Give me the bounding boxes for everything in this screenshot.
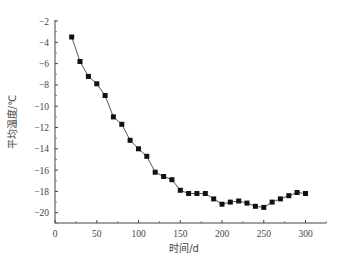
line-chart: −2−4−6−8−10−12−14−16−18−2005010015020025… <box>0 0 341 271</box>
data-point-marker <box>286 193 291 198</box>
y-tick-label: −4 <box>39 38 49 48</box>
data-point-marker <box>78 59 83 64</box>
data-point-marker <box>211 196 216 201</box>
data-point-marker <box>295 190 300 195</box>
data-point-marker <box>178 188 183 193</box>
data-point-marker <box>161 174 166 179</box>
x-tick-label: 100 <box>131 229 146 239</box>
x-axis-title: 时间/d <box>169 242 199 254</box>
x-tick-label: 0 <box>53 229 58 239</box>
data-point-marker <box>220 202 225 207</box>
x-tick-label: 250 <box>257 229 272 239</box>
data-point-marker <box>186 191 191 196</box>
data-point-marker <box>236 199 241 204</box>
y-tick-label: −12 <box>34 123 49 133</box>
data-point-marker <box>144 154 149 159</box>
x-tick-label: 50 <box>92 229 102 239</box>
y-tick-label: −20 <box>34 208 49 218</box>
data-point-marker <box>153 170 158 175</box>
y-tick-label: −10 <box>34 102 49 112</box>
x-tick-label: 150 <box>173 229 188 239</box>
y-tick-label: −16 <box>34 166 49 176</box>
data-point-marker <box>228 200 233 205</box>
data-point-marker <box>136 146 141 151</box>
data-point-marker <box>203 191 208 196</box>
data-point-marker <box>86 74 91 79</box>
y-tick-label: −8 <box>39 80 49 90</box>
data-point-marker <box>128 138 133 143</box>
data-point-marker <box>194 191 199 196</box>
data-point-marker <box>261 205 266 210</box>
y-tick-label: −2 <box>39 17 49 27</box>
axes: −2−4−6−8−10−12−14−16−18−2005010015020025… <box>34 17 326 240</box>
x-tick-label: 300 <box>298 229 313 239</box>
data-point-marker <box>303 191 308 196</box>
data-point-marker <box>245 201 250 206</box>
y-tick-label: −14 <box>34 144 49 154</box>
data-point-marker <box>253 204 258 209</box>
data-point-marker <box>103 93 108 98</box>
data-point-marker <box>169 177 174 182</box>
data-point-marker <box>270 200 275 205</box>
series-line <box>72 37 306 207</box>
y-axis-title: 平均温度/℃ <box>6 95 18 150</box>
data-point-marker <box>111 114 116 119</box>
x-tick-label: 200 <box>215 229 230 239</box>
data-point-marker <box>278 196 283 201</box>
y-tick-label: −6 <box>39 59 49 69</box>
y-tick-label: −18 <box>34 187 49 197</box>
data-series <box>69 35 308 210</box>
data-point-marker <box>69 35 74 40</box>
data-point-marker <box>119 122 124 127</box>
data-point-marker <box>94 81 99 86</box>
